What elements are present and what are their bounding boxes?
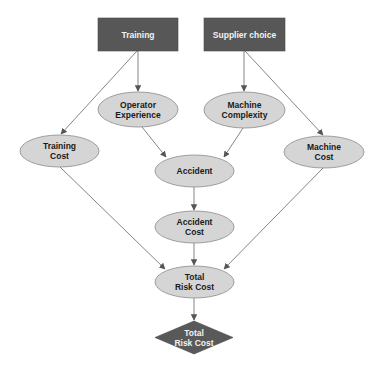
chance-node-accident-cost[interactable] — [155, 211, 234, 243]
chance-node-training-cost[interactable] — [20, 135, 99, 167]
chance-node-machine-complexity[interactable] — [204, 92, 285, 128]
decision-node-supplier-choice[interactable] — [204, 18, 285, 51]
chance-node-total-risk-cost[interactable] — [155, 266, 234, 298]
chance-node-accident[interactable] — [155, 155, 234, 187]
chance-node-machine-cost[interactable] — [284, 136, 364, 168]
diagram-canvas — [0, 0, 381, 367]
chance-node-operator-experience[interactable] — [98, 92, 178, 127]
edge-operator-experience-to-accident — [142, 127, 166, 157]
utility-node-total-risk-cost[interactable] — [155, 321, 233, 354]
edge-machine-complexity-to-accident — [224, 128, 243, 157]
influence-diagram: Training Supplier choice Operator Experi… — [0, 0, 381, 367]
edge-training-cost-to-total-risk-cost — [60, 167, 165, 269]
edge-machine-cost-to-total-risk-cost — [224, 168, 323, 269]
decision-node-training[interactable] — [98, 18, 178, 51]
